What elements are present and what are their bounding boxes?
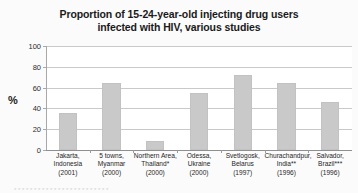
category-label-line: (2001) [46,169,90,177]
category-label-line: Churachandpur, [265,152,309,160]
y-tick-label: 60 [33,83,41,92]
category-label-line: 5 towns, [90,152,134,160]
y-tick-mark [43,108,46,109]
category-label-line: Myanmar [90,160,134,168]
category-label-line: India** [265,160,309,168]
category-label-line: Belarus [221,160,265,168]
category-label-line: Indonesia [46,160,90,168]
bar [59,113,77,150]
chart-title-line-1: Proportion of 15-24-year-old injecting d… [0,8,358,21]
category-label-line: Brazil*** [308,160,352,168]
x-axis-category-label: 5 towns,Myanmar(2000) [90,152,134,177]
bar [321,102,339,150]
y-tick-label: 0 [37,146,41,155]
y-tick-label: 80 [33,62,41,71]
x-axis-category-label: Churachandpur,India**(1996) [265,152,309,177]
y-tick-label: 40 [33,104,41,113]
y-tick-mark [43,67,46,68]
bar [277,83,295,150]
category-label-line: (2000) [133,169,177,177]
y-axis-title: % [8,94,18,106]
category-label-line: Ukraine [177,160,221,168]
bar-group [46,46,352,150]
category-label-line: Odessa, [177,152,221,160]
y-tick-label: 20 [33,125,41,134]
bar [234,75,252,150]
category-label-line: (1996) [265,169,309,177]
bar [102,83,120,150]
bar [146,141,164,150]
y-axis-line [46,46,47,150]
y-tick-mark [43,46,46,47]
category-label-line: Jakarta, [46,152,90,160]
footnote: * * * * * * * * * * * * * * * * * * * * … [14,187,344,193]
y-tick-mark [43,150,46,151]
y-tick-mark [43,88,46,89]
category-label-line: (1997) [221,169,265,177]
category-label-line: Salvador, [308,152,352,160]
category-label-line: Thailand* [133,160,177,168]
x-axis-category-labels: Jakarta,Indonesia(2001)5 towns,Myanmar(2… [46,152,352,186]
category-label-line: (1996) [308,169,352,177]
chart-title: Proportion of 15-24-year-old injecting d… [0,8,358,34]
category-label-line: Svetlogosk, [221,152,265,160]
bar [190,93,208,150]
x-axis-category-label: Salvador,Brazil***(1996) [308,152,352,177]
chart-title-line-2: infected with HIV, various studies [0,21,358,34]
category-label-line: (2000) [177,169,221,177]
x-axis-category-label: Odessa,Ukraine(2000) [177,152,221,177]
y-tick-mark [43,129,46,130]
y-tick-label: 100 [28,42,41,51]
chart-figure: Proportion of 15-24-year-old injecting d… [0,0,358,193]
category-label-line: Northern Area, [133,152,177,160]
x-axis-category-label: Svetlogosk,Belarus(1997) [221,152,265,177]
x-axis-category-label: Northern Area,Thailand*(2000) [133,152,177,177]
x-axis-line [46,150,352,151]
x-axis-category-label: Jakarta,Indonesia(2001) [46,152,90,177]
plot-area: 020406080100 [46,46,352,150]
category-label-line: (2000) [90,169,134,177]
